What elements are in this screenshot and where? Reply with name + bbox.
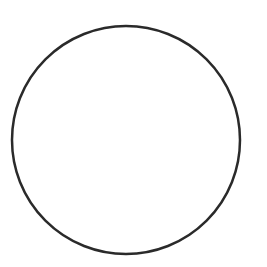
figure-canvas [0, 0, 267, 267]
circle-figure-svg [0, 0, 267, 267]
canvas-background [0, 0, 267, 267]
